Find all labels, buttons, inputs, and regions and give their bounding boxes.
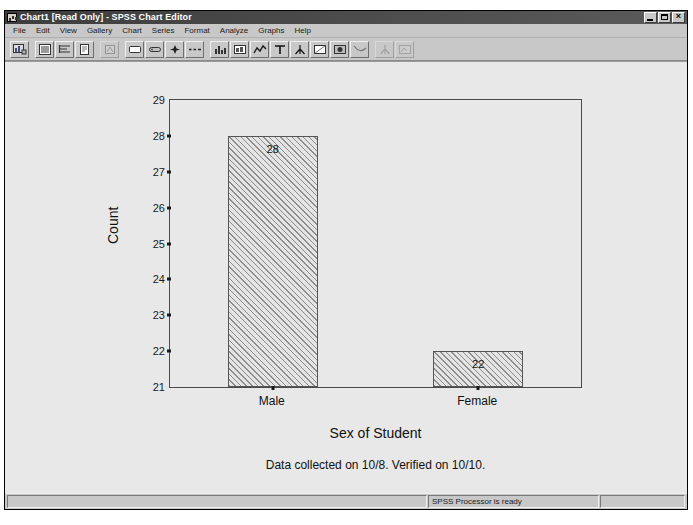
text-alignment-icon[interactable] xyxy=(55,41,74,58)
screenshot-root: Chart1 [Read Only] - SPSS Chart Editor ×… xyxy=(0,0,693,525)
y-axis-tick-mark xyxy=(167,278,171,281)
menu-item-series[interactable]: Series xyxy=(147,24,180,37)
y-axis-tick-label: 26 xyxy=(143,202,165,214)
fill-pattern-icon[interactable] xyxy=(35,41,54,58)
title-bar[interactable]: Chart1 [Read Only] - SPSS Chart Editor × xyxy=(5,11,687,24)
maximize-icon xyxy=(661,14,668,20)
bar-chart-icon[interactable] xyxy=(210,41,229,58)
y-axis-tick-mark xyxy=(167,134,171,137)
spin-chart-icon[interactable] xyxy=(100,41,119,58)
swap-axes-icon[interactable] xyxy=(395,41,414,58)
y-axis-title[interactable]: Count xyxy=(105,207,121,244)
maximize-button[interactable] xyxy=(658,12,671,23)
y-axis-tick-label: 22 xyxy=(143,345,165,357)
text-tool-icon[interactable] xyxy=(270,41,289,58)
color-palette-icon[interactable] xyxy=(75,41,94,58)
y-axis-tick-mark xyxy=(167,170,171,173)
line-chart-icon[interactable] xyxy=(250,41,269,58)
status-bar: SPSS Processor is ready xyxy=(5,493,687,509)
status-left-pane xyxy=(7,495,427,508)
menu-item-help[interactable]: Help xyxy=(290,24,316,37)
menu-bar: File Edit View Gallery Chart Series Form… xyxy=(5,24,687,38)
chart-properties-icon[interactable] xyxy=(10,41,29,58)
bar[interactable]: 28 xyxy=(228,136,318,387)
explode-slice-icon[interactable] xyxy=(375,41,394,58)
menu-item-view[interactable]: View xyxy=(55,24,82,37)
bar-style-icon[interactable] xyxy=(125,41,144,58)
window-title: Chart1 [Read Only] - SPSS Chart Editor xyxy=(20,11,192,24)
outer-frame-icon[interactable] xyxy=(310,41,329,58)
chart-canvas[interactable]: Count 212223242526272829 2822 MaleFemale… xyxy=(5,61,687,493)
y-axis-tick-mark xyxy=(167,242,171,245)
menu-item-format[interactable]: Format xyxy=(179,24,214,37)
y-axis-tick-label: 28 xyxy=(143,130,165,142)
chart-footnote[interactable]: Data collected on 10/8. Verified on 10/1… xyxy=(169,458,582,472)
minimize-icon xyxy=(647,19,653,21)
x-axis-title[interactable]: Sex of Student xyxy=(169,425,582,441)
bar-label-style-icon[interactable] xyxy=(145,41,164,58)
marker-icon[interactable] xyxy=(165,41,184,58)
minimize-button[interactable] xyxy=(644,12,657,23)
x-axis-tick-mark xyxy=(477,386,480,390)
bar-value-label: 28 xyxy=(229,143,317,155)
menu-item-file[interactable]: File xyxy=(8,24,31,37)
menu-item-graphs[interactable]: Graphs xyxy=(253,24,289,37)
inner-frame-icon[interactable] xyxy=(330,41,349,58)
toolbar xyxy=(5,38,687,61)
y-axis-tick-mark xyxy=(167,314,171,317)
y-axis-tick-label: 24 xyxy=(143,273,165,285)
menu-item-chart[interactable]: Chart xyxy=(117,24,147,37)
axis-tool-icon[interactable] xyxy=(290,41,309,58)
y-axis-tick-label: 29 xyxy=(143,94,165,106)
plot-frame: 212223242526272829 2822 xyxy=(169,99,582,388)
menu-item-edit[interactable]: Edit xyxy=(31,24,55,37)
bar-value-label: 22 xyxy=(434,358,522,370)
x-axis-category-label[interactable]: Male xyxy=(259,394,285,408)
y-axis-tick-label: 27 xyxy=(143,166,165,178)
y-axis-tick-label: 25 xyxy=(143,238,165,250)
y-axis-tick-mark xyxy=(167,350,171,353)
menu-item-gallery[interactable]: Gallery xyxy=(82,24,117,37)
y-axis-tick-label: 23 xyxy=(143,309,165,321)
x-axis-category-label[interactable]: Female xyxy=(457,394,497,408)
chart-window-icon xyxy=(7,13,17,22)
line-style-icon[interactable] xyxy=(185,41,204,58)
plot-area: 212223242526272829 2822 xyxy=(170,100,581,387)
histogram-icon[interactable] xyxy=(230,41,249,58)
close-button[interactable]: × xyxy=(672,12,685,23)
spss-chart-editor-window: Chart1 [Read Only] - SPSS Chart Editor ×… xyxy=(4,10,688,510)
status-right-pane xyxy=(600,495,685,508)
y-axis-tick-label: 21 xyxy=(143,381,165,393)
reference-line-icon[interactable] xyxy=(350,41,369,58)
status-message: SPSS Processor is ready xyxy=(428,495,599,508)
menu-item-analyze[interactable]: Analyze xyxy=(215,24,253,37)
close-icon: × xyxy=(673,12,684,21)
bar[interactable]: 22 xyxy=(433,351,523,387)
x-axis-tick-mark xyxy=(271,386,274,390)
y-axis-tick-mark xyxy=(167,206,171,209)
